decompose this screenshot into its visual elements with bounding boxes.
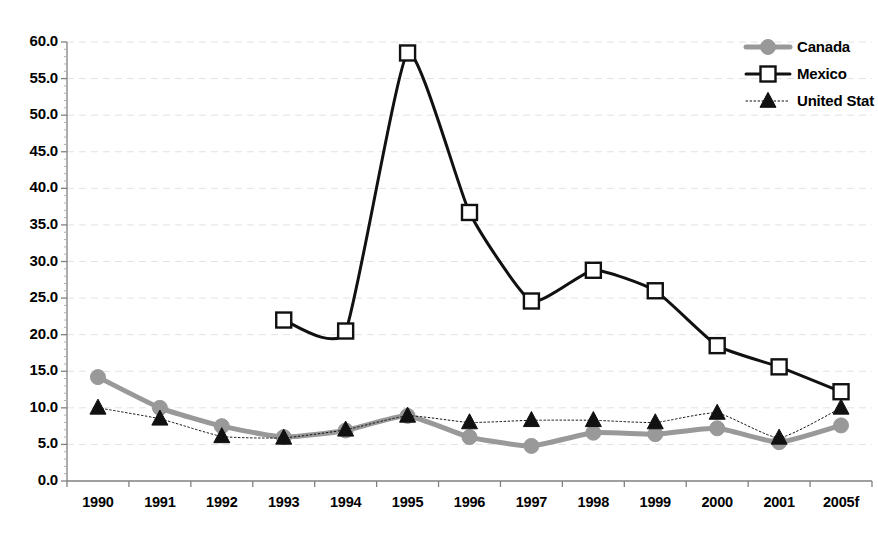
x-tick-label: 1992 — [187, 494, 257, 510]
x-tick-label: 1991 — [125, 494, 195, 510]
y-tick-label: 10.0 — [2, 398, 58, 415]
data-point-marker — [90, 370, 105, 385]
data-point-marker — [524, 294, 539, 309]
chart-canvas — [0, 0, 878, 538]
x-tick-label: 2001 — [744, 494, 814, 510]
data-point-marker — [648, 283, 663, 298]
data-point-marker — [462, 205, 477, 220]
y-tick-label: 40.0 — [2, 178, 58, 195]
y-tick-label: 45.0 — [2, 142, 58, 159]
x-tick-label: 1994 — [311, 494, 381, 510]
data-point-marker — [586, 425, 601, 440]
x-tick-label: 2005f — [806, 494, 876, 510]
data-point-marker — [834, 418, 849, 433]
x-tick-label: 1990 — [63, 494, 133, 510]
legend-entry-label: Mexico — [797, 65, 847, 82]
y-tick-label: 25.0 — [2, 288, 58, 305]
x-tick-label: 1998 — [558, 494, 628, 510]
data-point-marker — [276, 313, 291, 328]
data-point-marker — [834, 384, 849, 399]
y-tick-label: 5.0 — [2, 434, 58, 451]
x-tick-label: 2000 — [682, 494, 752, 510]
data-point-marker — [772, 359, 787, 374]
y-tick-label: 0.0 — [2, 471, 58, 488]
y-tick-label: 30.0 — [2, 252, 58, 269]
x-tick-label: 1997 — [496, 494, 566, 510]
y-tick-label: 35.0 — [2, 215, 58, 232]
x-tick-label: 1999 — [620, 494, 690, 510]
chart-background — [0, 0, 878, 538]
x-tick-label: 1993 — [249, 494, 319, 510]
y-tick-label: 60.0 — [2, 32, 58, 49]
data-point-marker — [400, 45, 415, 60]
data-point-marker — [338, 324, 353, 339]
data-point-marker — [462, 430, 477, 445]
x-tick-label: 1996 — [435, 494, 505, 510]
data-point-marker — [710, 338, 725, 353]
data-point-marker — [710, 421, 725, 436]
legend-marker-swatch — [761, 67, 776, 82]
data-point-marker — [586, 263, 601, 278]
y-tick-label: 50.0 — [2, 105, 58, 122]
legend-entry-label: Canada — [797, 38, 850, 55]
legend-marker-swatch — [761, 40, 776, 55]
x-tick-label: 1995 — [373, 494, 443, 510]
y-tick-label: 55.0 — [2, 69, 58, 86]
line-chart: 0.05.010.015.020.025.030.035.040.045.050… — [0, 0, 878, 538]
legend-entry-label: United Stat — [797, 92, 874, 109]
data-point-marker — [524, 438, 539, 453]
y-tick-label: 15.0 — [2, 361, 58, 378]
y-tick-label: 20.0 — [2, 325, 58, 342]
